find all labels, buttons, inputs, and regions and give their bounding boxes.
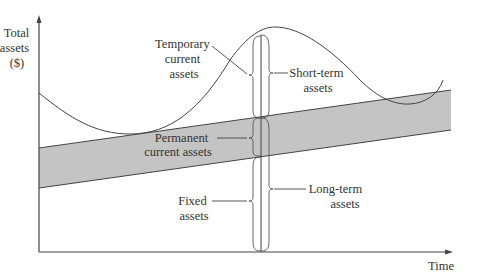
brace-fixed [249,157,261,251]
label-fixed-assets: Fixed assets [178,194,210,223]
x-axis-arrow-icon [445,250,453,255]
y-axis-label: Total assets ($) [0,26,32,70]
brace-temporary-current [249,36,261,118]
label-permanent-current-assets: Permanent current assets [144,131,212,159]
x-axis-label: Time [428,259,454,273]
label-temporary-current-assets: Temporary current assets [155,37,213,81]
brace-short-term [261,35,273,118]
asset-diagram: Total assets ($) Time Temporary current … [0,0,477,279]
label-long-term-assets: Long-term assets [309,182,366,211]
y-axis-arrow-icon [37,15,42,23]
label-short-term-assets: Short-term assets [289,66,346,95]
leader-temporary [212,46,247,74]
